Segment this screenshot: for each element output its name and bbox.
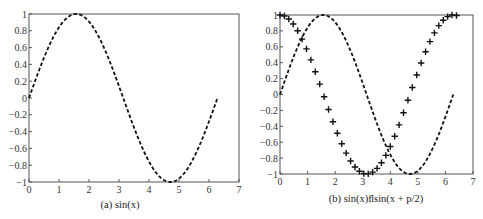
series-marker-plus — [414, 72, 420, 78]
series-marker-plus — [339, 141, 345, 147]
y-tick-label: 0.4 — [15, 59, 28, 70]
y-tick-label: −0.4 — [9, 126, 27, 137]
y-tick-label: 0.8 — [15, 25, 28, 36]
y-tick-label: −0.2 — [9, 109, 27, 120]
x-tick-label: 6 — [443, 176, 448, 187]
y-tick-label: 0.6 — [15, 42, 28, 53]
series-marker-plus — [312, 69, 318, 75]
series-marker-plus — [286, 16, 292, 22]
series-marker-plus — [347, 158, 353, 164]
figure-caption: (a) sin(x) — [101, 199, 140, 211]
x-tick-label: 3 — [360, 176, 365, 187]
x-tick-label: 7 — [237, 184, 242, 195]
y-tick-label: 0 — [273, 89, 278, 100]
y-tick-label: 0.2 — [15, 76, 28, 87]
y-tick-label: −0.4 — [260, 121, 278, 132]
series-marker-plus — [325, 106, 331, 112]
series-marker-plus — [440, 17, 446, 23]
y-tick-label: 0.4 — [266, 57, 279, 68]
series-marker-plus — [422, 49, 428, 55]
y-tick-label: 0.6 — [266, 41, 279, 52]
y-tick-label: −0.8 — [9, 160, 27, 171]
x-tick-label: 3 — [117, 184, 122, 195]
x-tick-label: 1 — [305, 176, 310, 187]
series-marker-plus — [299, 36, 305, 42]
series-marker-plus — [317, 81, 323, 87]
y-tick-label: −0.6 — [9, 143, 27, 154]
y-tick-label: 0.8 — [266, 25, 279, 36]
y-tick-label: −1 — [16, 177, 27, 188]
series-marker-plus — [383, 152, 389, 158]
series-marker-plus — [378, 160, 384, 166]
series-marker-plus — [334, 130, 340, 136]
x-tick-label: 4 — [147, 184, 152, 195]
series-marker-plus — [400, 110, 406, 116]
y-tick-label: 1 — [22, 9, 27, 20]
x-tick-label: 1 — [57, 184, 62, 195]
x-tick-label: 4 — [388, 176, 393, 187]
y-tick-label: 0 — [22, 93, 27, 104]
x-tick-label: 2 — [87, 184, 92, 195]
series-marker-plus — [431, 30, 437, 36]
series-marker-plus — [405, 97, 411, 103]
x-tick-label: 6 — [207, 184, 212, 195]
y-tick-label: −0.2 — [260, 105, 278, 116]
series-marker-plus — [303, 46, 309, 52]
series-marker-plus — [281, 13, 287, 19]
x-tick-label: 0 — [278, 176, 283, 187]
x-tick-label: 7 — [471, 176, 476, 187]
figure: 0123456710.80.60.40.20−0.2−0.4−0.6−0.8−1… — [0, 0, 483, 219]
series-marker-plus — [374, 165, 380, 171]
figure-caption: (b) sin(x)ﬂsin(x + p/2) — [329, 193, 424, 205]
series-sin-line — [280, 15, 453, 174]
x-tick-label: 5 — [177, 184, 182, 195]
y-tick-label: −0.6 — [260, 137, 278, 148]
x-tick-label: 0 — [27, 184, 32, 195]
chart-panel-b: 0123456710.80.60.40.20−0.2−0.4−0.6−0.8−1… — [260, 10, 476, 206]
x-tick-label: 2 — [333, 176, 338, 187]
series-marker-plus — [352, 164, 358, 170]
series-marker-plus — [294, 28, 300, 34]
series-marker-plus — [409, 84, 415, 90]
series-marker-plus — [343, 150, 349, 156]
series-sin-line — [29, 14, 218, 182]
series-marker-plus — [330, 119, 336, 125]
series-marker-plus — [396, 122, 402, 128]
y-tick-label: −1 — [267, 169, 278, 180]
series-marker-plus — [290, 21, 296, 27]
y-tick-label: −0.8 — [260, 153, 278, 164]
chart-panel-a: 0123456710.80.60.40.20−0.2−0.4−0.6−0.8−1… — [9, 9, 242, 212]
series-marker-plus — [391, 133, 397, 139]
axes-box — [280, 15, 473, 174]
series-marker-plus — [308, 57, 314, 63]
series-marker-plus — [436, 22, 442, 28]
axes-box — [29, 14, 239, 182]
series-marker-plus — [418, 60, 424, 66]
series-marker-plus — [453, 12, 459, 18]
y-tick-label: 0.2 — [266, 73, 279, 84]
x-tick-label: 5 — [415, 176, 420, 187]
series-marker-plus — [427, 38, 433, 44]
series-marker-plus — [321, 94, 327, 100]
